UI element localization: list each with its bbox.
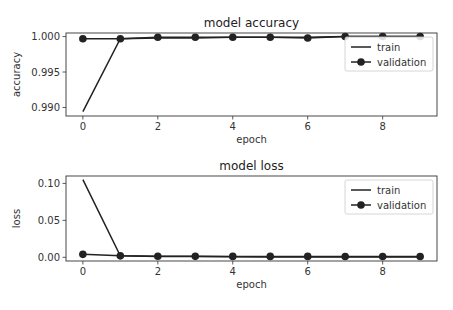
data-point-validation (266, 253, 274, 261)
y-axis-label: accuracy (11, 52, 22, 97)
x-tick-label: 6 (305, 121, 311, 132)
x-tick-label: 2 (155, 266, 161, 277)
chart-title: model accuracy (204, 16, 299, 30)
legend-marker-validation (357, 201, 365, 209)
x-tick-label: 4 (230, 121, 236, 132)
y-tick-label: 0.995 (31, 67, 60, 78)
data-point-validation (416, 253, 424, 261)
figure: 024680.9900.9951.000model accuracyepocha… (0, 0, 453, 310)
y-axis-label: loss (11, 209, 22, 228)
data-point-validation (266, 33, 274, 41)
series-line-validation (83, 254, 420, 256)
data-point-validation (117, 252, 125, 260)
y-tick-label: 0.05 (38, 215, 60, 226)
x-tick-label: 2 (155, 121, 161, 132)
y-tick-label: 0.10 (38, 178, 60, 189)
legend-label-train: train (377, 185, 400, 196)
legend-label-validation: validation (377, 200, 426, 211)
data-point-validation (117, 35, 125, 43)
data-point-validation (79, 251, 87, 259)
data-point-validation (154, 33, 162, 41)
x-tick-label: 0 (80, 266, 86, 277)
data-point-validation (154, 252, 162, 260)
x-axis-label: epoch (236, 279, 266, 290)
legend: trainvalidation (345, 180, 433, 214)
data-point-validation (229, 33, 237, 41)
data-point-validation (79, 35, 87, 43)
y-tick-label: 0.00 (38, 252, 60, 263)
data-point-validation (379, 253, 387, 261)
data-point-validation (304, 34, 312, 42)
x-tick-label: 8 (379, 266, 385, 277)
legend-marker-validation (357, 58, 365, 66)
x-tick-label: 8 (379, 121, 385, 132)
data-point-validation (191, 33, 199, 41)
x-tick-label: 0 (80, 121, 86, 132)
chart-title: model loss (219, 159, 283, 173)
legend-label-train: train (377, 42, 400, 53)
y-tick-label: 0.990 (31, 102, 60, 113)
data-point-validation (191, 253, 199, 261)
x-tick-label: 4 (230, 266, 236, 277)
data-point-validation (341, 253, 349, 261)
accuracy-chart: 024680.9900.9951.000model accuracyepocha… (11, 16, 437, 145)
y-tick-label: 1.000 (31, 31, 60, 42)
x-tick-label: 6 (305, 266, 311, 277)
legend: trainvalidation (345, 37, 433, 71)
data-point-validation (229, 253, 237, 261)
x-axis-label: epoch (236, 134, 266, 145)
data-point-validation (304, 253, 312, 261)
legend-label-validation: validation (377, 57, 426, 68)
loss-chart: 024680.000.050.10model lossepochlosstrai… (11, 159, 437, 290)
